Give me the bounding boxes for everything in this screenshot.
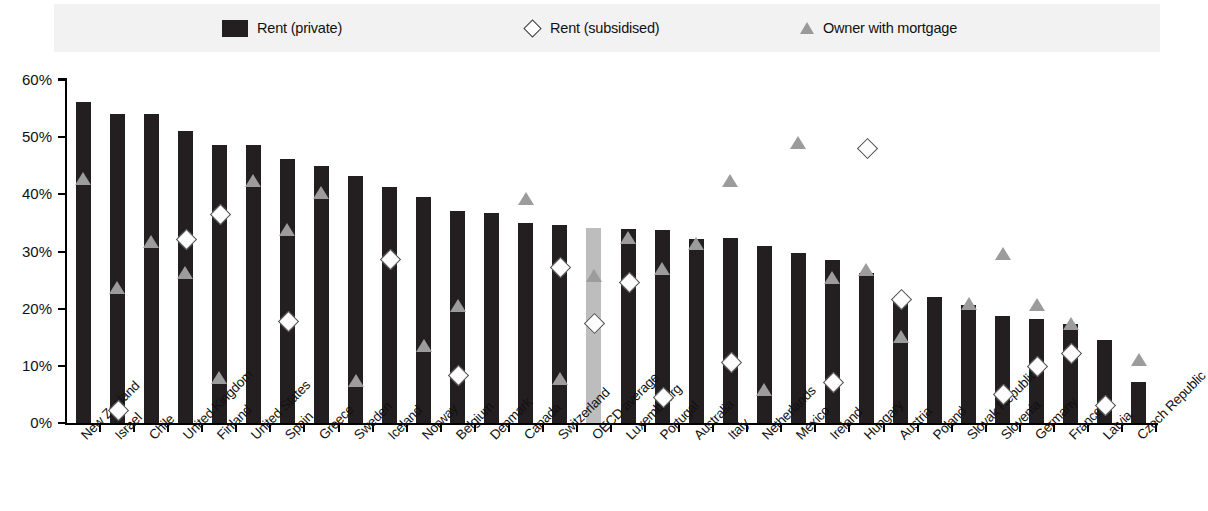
bar-hungary xyxy=(859,273,874,423)
marker-owner-with-mortgage xyxy=(211,371,227,384)
y-axis-tick-label: 10% xyxy=(0,357,52,374)
bar-italy xyxy=(723,238,738,423)
marker-owner-with-mortgage xyxy=(824,271,840,284)
marker-rent-subsidised xyxy=(996,387,1009,400)
bar-iceland xyxy=(382,187,397,423)
marker-rent-subsidised xyxy=(213,207,226,220)
marker-rent-subsidised xyxy=(553,260,566,273)
y-axis-tick xyxy=(58,79,66,81)
marker-rent-subsidised xyxy=(451,368,464,381)
y-axis-tick xyxy=(58,308,66,310)
marker-owner-with-mortgage xyxy=(893,330,909,343)
bar-netherlands xyxy=(757,246,772,423)
bar-canada xyxy=(518,223,533,423)
marker-rent-subsidised xyxy=(860,141,873,154)
marker-rent-subsidised xyxy=(179,232,192,245)
marker-owner-with-mortgage xyxy=(1063,317,1079,330)
bar-slovak-republic xyxy=(961,305,976,423)
marker-rent-subsidised xyxy=(656,390,669,403)
marker-rent-subsidised xyxy=(111,403,124,416)
marker-rent-subsidised xyxy=(281,314,294,327)
marker-rent-subsidised xyxy=(894,292,907,305)
legend-label-rent-private: Rent (private) xyxy=(257,20,342,36)
bar-new-zealand xyxy=(76,102,91,423)
y-axis-tick-label: 50% xyxy=(0,128,52,145)
marker-rent-subsidised xyxy=(622,275,635,288)
legend-item-rent-private: Rent (private) xyxy=(222,17,342,39)
y-axis-tick xyxy=(58,136,66,138)
y-axis-tick xyxy=(58,251,66,253)
y-axis-tick-label: 60% xyxy=(0,71,52,88)
bar-greece xyxy=(314,166,329,423)
y-axis-tick-label: 30% xyxy=(0,243,52,260)
bar-australia xyxy=(689,239,704,423)
bar-poland xyxy=(927,297,942,423)
bar-norway xyxy=(416,197,431,423)
legend-item-owner-with-mortgage: Owner with mortgage xyxy=(800,17,957,39)
marker-rent-subsidised xyxy=(587,316,600,329)
marker-owner-with-mortgage xyxy=(75,172,91,185)
marker-rent-subsidised xyxy=(1064,346,1077,359)
bar-ireland xyxy=(825,260,840,423)
marker-rent-subsidised xyxy=(383,252,396,265)
bar-switzerland xyxy=(552,225,567,423)
marker-owner-with-mortgage xyxy=(961,297,977,310)
y-axis-tick xyxy=(58,422,66,424)
plot-area xyxy=(66,80,1156,423)
marker-owner-with-mortgage xyxy=(722,174,738,187)
marker-owner-with-mortgage xyxy=(586,269,602,282)
marker-owner-with-mortgage xyxy=(143,235,159,248)
marker-owner-with-mortgage xyxy=(1131,353,1147,366)
y-axis-tick-label: 20% xyxy=(0,300,52,317)
marker-rent-subsidised xyxy=(1030,359,1043,372)
marker-owner-with-mortgage xyxy=(790,136,806,149)
marker-rent-subsidised xyxy=(724,355,737,368)
marker-owner-with-mortgage xyxy=(450,299,466,312)
legend-label-owner-with-mortgage: Owner with mortgage xyxy=(823,20,957,36)
y-axis-tick xyxy=(58,193,66,195)
marker-owner-with-mortgage xyxy=(416,339,432,352)
marker-owner-with-mortgage xyxy=(109,281,125,294)
marker-rent-subsidised xyxy=(826,375,839,388)
square-marker-icon xyxy=(222,20,248,37)
y-axis-tick-label: 0% xyxy=(0,414,52,431)
y-axis-tick-label: 40% xyxy=(0,185,52,202)
marker-owner-with-mortgage xyxy=(348,374,364,387)
marker-rent-subsidised xyxy=(1098,398,1111,411)
marker-owner-with-mortgage xyxy=(245,174,261,187)
y-axis-tick xyxy=(58,365,66,367)
legend-label-rent-subsidised: Rent (subsidised) xyxy=(550,20,659,36)
bar-spain xyxy=(280,159,295,423)
marker-owner-with-mortgage xyxy=(1029,298,1045,311)
bar-belgium xyxy=(450,211,465,423)
marker-owner-with-mortgage xyxy=(654,262,670,275)
marker-owner-with-mortgage xyxy=(552,372,568,385)
marker-owner-with-mortgage xyxy=(995,247,1011,260)
bar-denmark xyxy=(484,213,499,423)
marker-owner-with-mortgage xyxy=(858,263,874,276)
marker-owner-with-mortgage xyxy=(518,192,534,205)
bar-chile xyxy=(144,114,159,423)
triangle-marker-icon xyxy=(800,22,814,34)
marker-owner-with-mortgage xyxy=(756,383,772,396)
bar-israel xyxy=(110,114,125,423)
legend-item-rent-subsidised: Rent (subsidised) xyxy=(524,17,659,39)
marker-owner-with-mortgage xyxy=(313,186,329,199)
diamond-marker-icon xyxy=(523,19,541,37)
chart-legend: Rent (private) Rent (subsidised) Owner w… xyxy=(54,4,1160,52)
marker-owner-with-mortgage xyxy=(279,223,295,236)
marker-owner-with-mortgage xyxy=(177,266,193,279)
marker-owner-with-mortgage xyxy=(688,237,704,250)
marker-owner-with-mortgage xyxy=(620,231,636,244)
